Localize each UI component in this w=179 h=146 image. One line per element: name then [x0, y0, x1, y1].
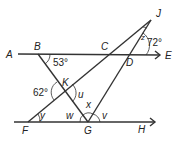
arc-u	[72, 84, 76, 102]
arc-62	[51, 82, 57, 100]
label-c: C	[101, 41, 109, 52]
arc-w	[80, 115, 83, 122]
angle-u: u	[78, 89, 84, 100]
angle-z: z	[140, 33, 145, 42]
angle-x: x	[85, 99, 92, 110]
label-j: J	[155, 8, 162, 19]
geometry-diagram: A B C D E F G H J K 53° 72° z 62° u x w …	[0, 0, 179, 146]
arc-x	[83, 113, 93, 115]
angle-53: 53°	[53, 57, 68, 68]
label-e: E	[165, 50, 172, 61]
label-d: D	[126, 57, 133, 68]
angle-62: 62°	[33, 87, 48, 98]
label-k: K	[62, 77, 70, 88]
label-a: A	[5, 49, 13, 60]
label-g: G	[84, 125, 92, 136]
angle-72: 72°	[147, 37, 162, 48]
arc-53	[45, 54, 50, 64]
label-h: H	[138, 124, 146, 135]
angle-w: w	[66, 110, 74, 121]
label-b: B	[34, 41, 41, 52]
arc-v	[93, 114, 100, 122]
angle-y: y	[39, 110, 46, 121]
angle-v: v	[102, 110, 108, 121]
label-f: F	[22, 125, 29, 136]
